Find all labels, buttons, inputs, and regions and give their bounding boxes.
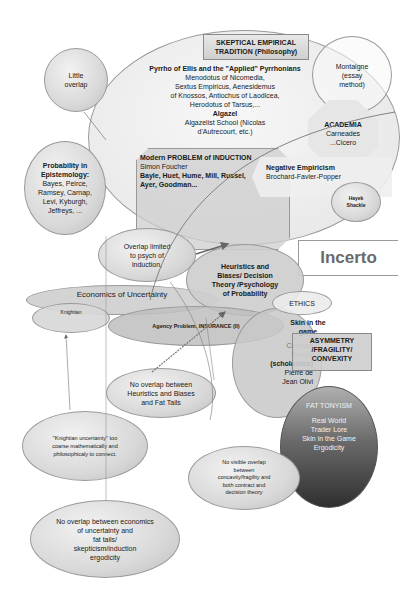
connector-algazel-curve [150, 112, 395, 300]
connector-curve-heuristics [170, 282, 213, 420]
connector-dashed-arrow [152, 312, 225, 372]
connector-little-overlap [84, 112, 106, 140]
connector-knightian-arrow [66, 335, 70, 410]
connector-overlap-arrow [196, 244, 228, 254]
